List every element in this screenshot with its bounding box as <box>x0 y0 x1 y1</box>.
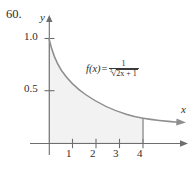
problem-number: 60. <box>6 8 22 21</box>
y-tick-label-1.0: 1.0 <box>24 31 38 42</box>
fraction-denominator: 3 √ 2x + 1 <box>109 68 139 78</box>
shaded-area <box>49 39 143 144</box>
function-name: f(x) <box>86 64 101 75</box>
radical-sign: √ <box>111 69 116 78</box>
y-tick-label-0.5: 0.5 <box>24 83 38 94</box>
y-axis-label: y <box>40 12 45 23</box>
function-fraction: 1 3 √ 2x + 1 <box>109 60 139 79</box>
x-axis-label: x <box>181 104 186 115</box>
function-label: f(x) = 1 3 √ 2x + 1 <box>86 60 139 79</box>
equals-sign: = <box>102 64 108 75</box>
x-axis-arrowhead <box>180 140 188 146</box>
x-tick-label-4: 4 <box>137 148 143 159</box>
curve-arrowhead <box>176 119 186 126</box>
y-axis-arrowhead <box>46 15 52 22</box>
radicand: 2x + 1 <box>116 69 138 78</box>
x-tick-label-1: 1 <box>66 148 72 159</box>
x-tick-label-3: 3 <box>113 148 119 159</box>
fraction-numerator: 1 <box>120 60 128 68</box>
x-tick-label-2: 2 <box>90 148 96 159</box>
figure-container: 60. y x 1.0 0.5 1 2 3 4 f(x) = 1 3 √ 2x … <box>0 0 194 170</box>
